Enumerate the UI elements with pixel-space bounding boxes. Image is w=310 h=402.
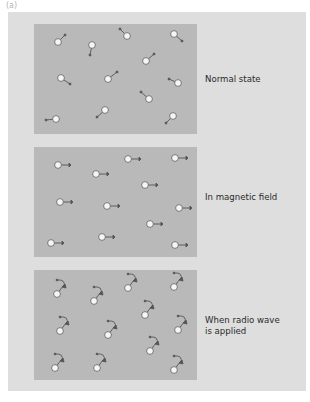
spin-icon <box>172 155 188 162</box>
spin-icon <box>143 53 155 64</box>
spin-icon <box>54 279 66 297</box>
spin-icon <box>168 78 181 86</box>
spin-icon <box>45 116 59 123</box>
spin-icon <box>89 42 96 56</box>
spin-icon <box>94 353 106 371</box>
spins-precessing <box>52 272 187 373</box>
spin-icon <box>96 107 108 118</box>
spin-icon <box>57 316 69 334</box>
spin-icon <box>104 203 120 210</box>
spin-icon <box>55 34 66 45</box>
spin-icon <box>147 221 163 228</box>
spins-aligned <box>48 155 192 249</box>
spin-icon <box>171 355 183 373</box>
spin-diagram <box>0 0 310 402</box>
spin-icon <box>99 234 115 241</box>
spin-icon <box>142 182 158 189</box>
spin-icon <box>105 71 118 82</box>
spin-icon <box>175 315 187 333</box>
spin-icon <box>171 272 183 290</box>
spin-icon <box>125 156 141 163</box>
spin-icon <box>57 199 73 206</box>
spin-icon <box>176 205 192 212</box>
spin-icon <box>165 113 176 124</box>
spin-icon <box>93 171 109 178</box>
spin-icon <box>142 300 154 318</box>
spin-icon <box>140 91 152 102</box>
spin-icon <box>48 240 64 247</box>
spin-icon <box>55 162 71 169</box>
spin-icon <box>105 320 117 338</box>
spin-icon <box>58 75 71 85</box>
spin-icon <box>52 353 64 371</box>
spin-icon <box>119 28 130 39</box>
spin-icon <box>171 31 183 42</box>
spin-icon <box>91 286 103 304</box>
spin-icon <box>125 273 137 291</box>
spin-icon <box>147 336 159 354</box>
spins-random <box>45 28 183 124</box>
spin-icon <box>172 242 188 249</box>
